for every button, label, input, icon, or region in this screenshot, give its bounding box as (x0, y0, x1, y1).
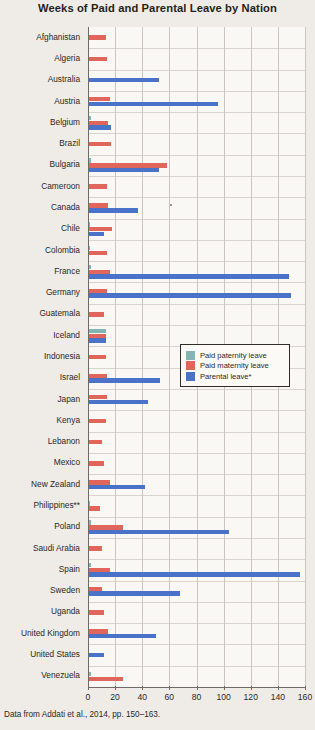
bar-parental (88, 591, 180, 595)
category-label: France (54, 267, 84, 276)
bar-parental (88, 125, 111, 129)
bar-maternity (88, 506, 100, 510)
category-label: Indonesia (44, 352, 84, 361)
bar-maternity (88, 184, 107, 188)
x-tick-mark (197, 686, 198, 690)
legend-label: Paid paternity leave (200, 351, 267, 360)
category-label: Poland (54, 522, 84, 531)
bar-maternity (88, 97, 110, 101)
bar-maternity (88, 142, 111, 146)
bar-parental (88, 338, 106, 342)
category-label: Lebanon (48, 437, 84, 446)
bar-maternity (88, 419, 106, 423)
category-label: Australia (48, 75, 84, 84)
x-tick-label: 160 (298, 692, 312, 702)
x-tick-mark (169, 686, 170, 690)
category-label: United Kingdom (21, 629, 84, 638)
x-tick-mark (305, 686, 306, 690)
bar-maternity (88, 587, 102, 591)
category-label: Germany (46, 288, 84, 297)
category-label: Brazil (59, 139, 84, 148)
x-tick-label: 120 (244, 692, 258, 702)
category-label: New Zealand (31, 480, 84, 489)
category-label: Mexico (54, 458, 84, 467)
y-axis-line (88, 27, 89, 687)
bar-parental (88, 653, 104, 657)
bar-maternity (88, 440, 102, 444)
category-label: Kenya (56, 416, 84, 425)
gridline-vertical (142, 27, 143, 687)
chart-title: Weeks of Paid and Parental Leave by Nati… (0, 2, 315, 14)
legend-item: Parental leave* (186, 372, 284, 381)
bar-parental (88, 378, 160, 382)
category-label: Belgium (50, 118, 84, 127)
category-label: Saudi Arabia (33, 544, 84, 553)
x-tick-label: 100 (216, 692, 230, 702)
gridline-vertical (305, 27, 306, 687)
bar-maternity (88, 610, 104, 614)
chart-legend: Paid paternity leavePaid maternity leave… (180, 344, 290, 387)
bar-parental (88, 274, 289, 278)
bar-parental (88, 78, 159, 82)
legend-swatch-paternity (186, 351, 195, 360)
bar-parental (88, 168, 159, 172)
category-label: Chile (61, 224, 84, 233)
x-tick-label: 60 (165, 692, 175, 702)
x-tick-label: 20 (110, 692, 120, 702)
bar-maternity (88, 546, 102, 550)
x-tick-label: 40 (137, 692, 147, 702)
bar-parental (88, 232, 104, 236)
bar-maternity (88, 568, 110, 572)
bar-maternity (88, 677, 123, 681)
category-label: Venezuela (41, 671, 84, 680)
category-label: Israel (60, 373, 84, 382)
bar-maternity (88, 461, 104, 465)
chart-caption: Data from Addati et al., 2014, pp. 150–1… (4, 710, 160, 719)
category-label: Colombia (45, 246, 84, 255)
legend-label: Paid maternity leave (200, 361, 269, 370)
category-label: Spain (59, 565, 84, 574)
legend-item: Paid maternity leave (186, 361, 284, 370)
category-label: Philippines** (33, 501, 84, 510)
x-axis-ticks: 020406080100120140160 (0, 690, 315, 706)
category-label: Afghanistan (36, 33, 84, 42)
legend-swatch-maternity (186, 361, 195, 370)
bar-maternity (88, 57, 107, 61)
category-label: Algeria (54, 54, 84, 63)
bar-parental (88, 634, 156, 638)
legend-label: Parental leave* (200, 372, 252, 381)
category-label: Iceland (53, 331, 84, 340)
bar-parental (88, 485, 145, 489)
legend-item: Paid paternity leave (186, 351, 284, 360)
x-tick-mark (224, 686, 225, 690)
bar-maternity (88, 374, 107, 378)
x-tick-label: 0 (86, 692, 91, 702)
category-label: Uganda (51, 607, 84, 616)
bar-parental (88, 572, 300, 576)
bar-maternity (88, 203, 108, 207)
x-tick-mark (251, 686, 252, 690)
bar-maternity (88, 35, 106, 39)
bar-parental (88, 530, 229, 534)
bar-maternity (88, 334, 106, 338)
bar-maternity (88, 480, 110, 484)
x-tick-mark (142, 686, 143, 690)
bar-parental (88, 400, 148, 404)
x-tick-label: 80 (192, 692, 202, 702)
bar-maternity (88, 251, 107, 255)
bar-maternity (88, 312, 104, 316)
bar-maternity (88, 121, 108, 125)
bar-parental (88, 293, 291, 297)
bar-parental (88, 208, 138, 212)
legend-swatch-parental (186, 372, 195, 381)
bar-paternity (88, 329, 106, 333)
bar-maternity (88, 395, 107, 399)
bar-maternity (88, 270, 110, 274)
x-tick-mark (115, 686, 116, 690)
bar-maternity (88, 355, 106, 359)
category-label: Bulgaria (50, 160, 84, 169)
bar-maternity (88, 289, 107, 293)
category-label: United States (30, 650, 84, 659)
category-label: Canada (51, 203, 84, 212)
category-label: Japan (57, 395, 84, 404)
